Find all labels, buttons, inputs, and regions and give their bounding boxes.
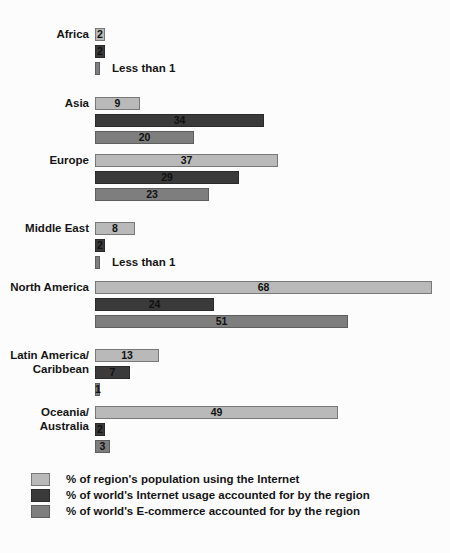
category-bars: 4923 [95,406,450,457]
bar [95,222,135,235]
bar-row: 49 [95,406,450,419]
chart-group: Latin America/ Caribbean1371 [0,349,450,400]
legend-label: % of world's E-commerce accounted for by… [66,505,360,518]
bar [95,256,100,269]
category-bars: 1371 [95,349,450,400]
bar [95,366,130,379]
bar-row: 2 [95,28,450,41]
chart-group: Europe372923 [0,154,450,205]
bar [95,171,239,184]
bar-row: Less than 1 [95,256,450,269]
bar [95,154,278,167]
bar [95,28,105,41]
bar-row: 13 [95,349,450,362]
category-label: Asia [0,97,95,111]
bar [95,114,264,127]
bar-chart: Africa22Less than 1Asia93420Europe372923… [0,0,450,553]
bar-row: 2 [95,423,450,436]
bar-row: 29 [95,171,450,184]
category-bars: 93420 [95,97,450,148]
bar [95,349,159,362]
bar-row: 23 [95,188,450,201]
chart-group: Africa22Less than 1 [0,28,450,79]
bar-row: Less than 1 [95,62,450,75]
bar-row: 68 [95,281,450,294]
bar-row: 7 [95,366,450,379]
bar [95,315,348,328]
legend-swatch [31,489,50,502]
bar-row: 1 [95,383,450,396]
legend-item: % of region's population using the Inter… [31,471,370,487]
bar [95,423,105,436]
bar-row: 34 [95,114,450,127]
bar-row: 2 [95,45,450,58]
bar-row: 9 [95,97,450,110]
bar [95,298,214,311]
bar [95,383,100,396]
category-label: Africa [0,28,95,42]
category-bars: 22Less than 1 [95,28,450,79]
bar-row: 20 [95,131,450,144]
category-bars: 82Less than 1 [95,222,450,273]
legend-item: % of world's Internet usage accounted fo… [31,487,370,503]
category-label: Europe [0,154,95,168]
chart-group: Asia93420 [0,97,450,148]
bar [95,45,105,58]
bar [95,97,140,110]
legend-item: % of world's E-commerce accounted for by… [31,503,370,519]
chart-group: Middle East82Less than 1 [0,222,450,273]
bar [95,62,100,75]
legend-swatch [31,473,50,486]
bar [95,281,432,294]
bar-row: 24 [95,298,450,311]
bar-row: 3 [95,440,450,453]
chart-legend: % of region's population using the Inter… [31,471,370,519]
category-label: North America [0,281,95,295]
bar-annotation: Less than 1 [112,256,175,269]
category-bars: 682451 [95,281,450,332]
category-label: Middle East [0,222,95,236]
bar-row: 51 [95,315,450,328]
bar-row: 2 [95,239,450,252]
category-bars: 372923 [95,154,450,205]
bar-row: 8 [95,222,450,235]
category-label: Latin America/ Caribbean [0,349,95,376]
bar [95,440,110,453]
legend-label: % of world's Internet usage accounted fo… [66,489,370,502]
bar [95,188,209,201]
bar-row: 37 [95,154,450,167]
category-label: Oceania/ Australia [0,406,95,433]
bar [95,131,194,144]
chart-group: North America682451 [0,281,450,332]
bar-annotation: Less than 1 [112,62,175,75]
legend-swatch [31,505,50,518]
legend-label: % of region's population using the Inter… [66,473,299,486]
chart-group: Oceania/ Australia4923 [0,406,450,457]
bar [95,406,338,419]
bar [95,239,105,252]
